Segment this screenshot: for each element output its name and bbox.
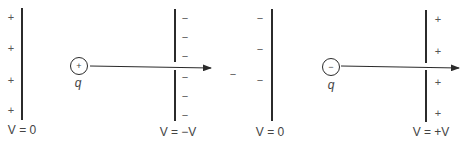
plus-sign: + — [435, 14, 441, 25]
potential-label: V = +V — [413, 126, 450, 138]
plus-sign: + — [435, 46, 441, 57]
potential-label: V = 0 — [8, 124, 36, 136]
plate-right-panel-right-lower — [425, 70, 427, 122]
plus-sign: + — [8, 75, 14, 86]
minus-sign: − — [182, 51, 188, 62]
charge-label: q — [75, 76, 82, 90]
plus-sign: + — [8, 43, 14, 54]
plus-sign: + — [435, 77, 441, 88]
plate-left-panel-right-upper — [174, 9, 176, 62]
arrow-left-panel — [90, 66, 211, 68]
stray-minus-sign: − — [230, 69, 236, 80]
minus-sign: − — [182, 72, 188, 83]
plate-left-panel-right-lower — [174, 70, 176, 121]
charge-label: q — [328, 78, 335, 92]
minus-sign: − — [257, 13, 263, 24]
minus-sign: − — [182, 13, 188, 24]
plus-sign: + — [8, 12, 14, 23]
charge-sign: + — [76, 61, 81, 71]
plate-right-panel-left — [271, 9, 273, 121]
minus-sign: − — [182, 32, 188, 43]
minus-sign: − — [257, 75, 263, 86]
minus-sign: − — [182, 110, 188, 121]
potential-label: V = 0 — [256, 126, 284, 138]
negative-charge: − — [322, 58, 340, 76]
potential-label: V = −V — [160, 126, 197, 138]
plus-sign: + — [435, 108, 441, 119]
charge-sign: − — [328, 62, 333, 72]
plate-right-panel-right-upper — [425, 10, 427, 63]
positive-charge: + — [70, 57, 88, 75]
minus-sign: − — [257, 44, 263, 55]
plus-sign: + — [8, 105, 14, 116]
plate-left-panel-left — [21, 8, 23, 120]
arrow-right-panel — [341, 66, 459, 68]
minus-sign: − — [182, 91, 188, 102]
